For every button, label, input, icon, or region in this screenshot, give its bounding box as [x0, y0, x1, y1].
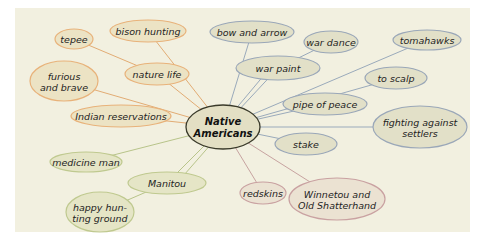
- node-label: bow and arrow: [217, 27, 288, 38]
- node-label: war dance: [306, 37, 356, 48]
- node-pipe-of-peace: pipe of peace: [283, 93, 367, 115]
- node-happy-hunting-ground: happy hun-ting ground: [66, 192, 134, 232]
- node-furious-and-brave: furiousand brave: [30, 61, 98, 101]
- node-nature-life: nature life: [125, 63, 189, 85]
- node-medicine-man: medicine man: [50, 152, 122, 172]
- node-label: war paint: [256, 63, 302, 74]
- node-label: tepee: [60, 34, 87, 45]
- node-label: to scalp: [377, 73, 414, 84]
- node-label: bison hunting: [116, 26, 181, 37]
- node-label: stake: [293, 139, 319, 150]
- node-fighting-against-settlers: fighting againstsettlers: [373, 106, 467, 148]
- node-label: Winnetou andOld Shatterhand: [298, 188, 377, 210]
- node-label: Manitou: [148, 178, 186, 189]
- node-winnetou: Winnetou andOld Shatterhand: [289, 178, 385, 220]
- node-label: happy hun-ting ground: [72, 201, 128, 223]
- node-manitou: Manitou: [128, 172, 206, 194]
- node-redskins: redskins: [240, 182, 286, 204]
- node-stake: stake: [275, 133, 337, 155]
- node-label: pipe of peace: [292, 99, 358, 110]
- node-bison-hunting: bison hunting: [110, 20, 186, 42]
- node-label: Indian reservations: [75, 111, 166, 122]
- node-bow-and-arrow: bow and arrow: [210, 21, 294, 43]
- node-war-paint: war paint: [236, 56, 320, 80]
- node-war-dance: war dance: [304, 31, 358, 53]
- node-tepee: tepee: [55, 29, 93, 49]
- mind-map-canvas: tepeebison huntingfuriousand bravenature…: [0, 0, 483, 239]
- node-label: nature life: [133, 69, 182, 80]
- node-label: redskins: [243, 188, 283, 199]
- node-label: medicine man: [52, 157, 120, 168]
- node-to-scalp: to scalp: [365, 67, 427, 89]
- node-tomahawks: tomahawks: [393, 30, 461, 50]
- node-label: tomahawks: [400, 35, 455, 46]
- center-node-ellipse: [186, 105, 260, 149]
- center-node: NativeAmericans: [186, 105, 260, 149]
- node-indian-reservations: Indian reservations: [71, 105, 171, 127]
